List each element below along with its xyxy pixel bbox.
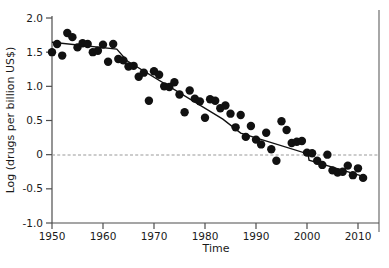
data-point bbox=[298, 137, 306, 145]
data-point bbox=[84, 40, 92, 48]
data-point bbox=[267, 145, 275, 153]
data-point bbox=[196, 97, 204, 105]
data-point bbox=[262, 129, 270, 137]
x-tick-label: 1960 bbox=[90, 230, 117, 242]
data-point bbox=[58, 51, 66, 59]
x-tick-label: 1950 bbox=[39, 230, 66, 242]
y-axis-ticks: -1.0-0.500.51.01.52.0 bbox=[23, 12, 53, 229]
data-point bbox=[277, 117, 285, 125]
data-point bbox=[155, 71, 163, 79]
x-tick-label: 2010 bbox=[345, 230, 372, 242]
data-point bbox=[359, 174, 367, 182]
data-point bbox=[221, 101, 229, 109]
x-tick-label: 1970 bbox=[141, 230, 168, 242]
data-point bbox=[129, 62, 137, 70]
data-point bbox=[247, 122, 255, 130]
data-point bbox=[145, 96, 153, 104]
data-point bbox=[226, 109, 234, 117]
data-point bbox=[201, 114, 209, 122]
x-tick-label: 1980 bbox=[192, 230, 219, 242]
data-point bbox=[170, 78, 178, 86]
scatter-plot: -1.0-0.500.51.01.52.0 195019601970198019… bbox=[0, 0, 389, 268]
data-points bbox=[48, 29, 368, 182]
y-tick-label: -1.0 bbox=[23, 217, 44, 229]
data-point bbox=[282, 126, 290, 134]
data-point bbox=[68, 33, 76, 41]
x-axis-title: Time bbox=[202, 242, 230, 255]
x-axis-ticks: 1950196019701980199020002010 bbox=[39, 223, 372, 242]
data-point bbox=[257, 140, 265, 148]
data-point bbox=[186, 86, 194, 94]
y-tick-label: 2.0 bbox=[26, 12, 43, 24]
data-point bbox=[109, 40, 117, 48]
data-point bbox=[344, 161, 352, 169]
data-point bbox=[237, 111, 245, 119]
data-point bbox=[140, 68, 148, 76]
data-point bbox=[272, 157, 280, 165]
data-point bbox=[48, 48, 56, 56]
y-axis-title: Log (drugs per billion US$) bbox=[4, 47, 17, 194]
chart-figure: -1.0-0.500.51.01.52.0 195019601970198019… bbox=[0, 0, 389, 268]
data-point bbox=[99, 40, 107, 48]
y-tick-label: 0 bbox=[36, 148, 43, 160]
data-point bbox=[211, 96, 219, 104]
data-point bbox=[323, 150, 331, 158]
data-point bbox=[53, 40, 61, 48]
data-point bbox=[308, 149, 316, 157]
data-point bbox=[318, 161, 326, 169]
data-point bbox=[242, 133, 250, 141]
y-tick-label: 0.5 bbox=[26, 114, 43, 126]
data-point bbox=[354, 164, 362, 172]
y-tick-label: 1.5 bbox=[26, 46, 43, 58]
data-point bbox=[231, 123, 239, 131]
data-point bbox=[349, 171, 357, 179]
data-point bbox=[175, 90, 183, 98]
y-tick-label: -0.5 bbox=[23, 182, 44, 194]
x-tick-label: 2000 bbox=[294, 230, 321, 242]
data-point bbox=[180, 108, 188, 116]
data-point bbox=[104, 58, 112, 66]
y-tick-label: 1.0 bbox=[26, 80, 43, 92]
x-tick-label: 1990 bbox=[243, 230, 270, 242]
